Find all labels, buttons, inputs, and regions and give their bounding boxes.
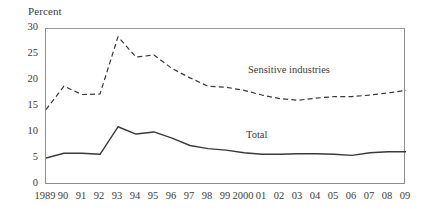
series-line-sensitive-industries (46, 37, 406, 110)
y-axis-tick-label: 10 (0, 125, 38, 136)
y-axis-tick-label: 5 (0, 151, 38, 162)
y-axis-tick-label: 30 (0, 21, 38, 32)
y-axis-tick-label: 20 (0, 73, 38, 84)
series-label-sensitive-industries: Sensitive industries (248, 64, 330, 75)
x-axis-tick-label: 09 (390, 190, 420, 201)
series-canvas (46, 29, 406, 185)
y-axis-tick-label: 25 (0, 47, 38, 58)
y-axis-tick-label: 0 (0, 177, 38, 188)
series-label-total: Total (246, 129, 267, 140)
y-axis-tick-label: 15 (0, 99, 38, 110)
plot-area (45, 28, 405, 184)
y-axis-title: Percent (28, 5, 62, 17)
line-chart: Percent 302520151050 Sensitive industrie… (0, 0, 429, 217)
series-line-total (46, 127, 406, 158)
